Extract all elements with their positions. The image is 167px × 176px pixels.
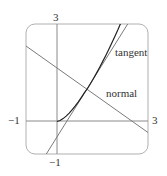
y-min-label: −1 — [49, 156, 61, 168]
x-min-label: −1 — [8, 114, 20, 126]
x-max-label: 3 — [152, 114, 158, 126]
curve — [57, 89, 87, 122]
graph-canvas: 3 −1 −1 3 tangent normal — [0, 0, 167, 176]
normal-label: normal — [106, 87, 137, 99]
y-max-label: 3 — [53, 11, 59, 23]
tangent-label: tangent — [115, 46, 147, 58]
